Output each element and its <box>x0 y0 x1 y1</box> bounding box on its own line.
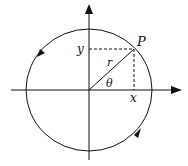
polar-diagram: P r θ x y <box>0 0 188 166</box>
x-label: x <box>130 91 137 105</box>
x-axis-arrow-icon <box>171 86 182 94</box>
y-axis-arrow-icon <box>85 4 93 14</box>
radius-label: r <box>107 56 113 69</box>
angle-label: θ <box>106 77 113 90</box>
y-label: y <box>76 42 84 56</box>
point-label: P <box>136 34 146 49</box>
